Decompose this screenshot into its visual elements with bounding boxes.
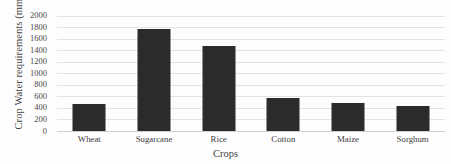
x-axis-tick-labels: WheatSugarcaneRiceCottonMaizeSorghum: [57, 134, 445, 148]
y-axis-tick-label: 200: [34, 115, 47, 124]
x-axis-tick-label: Rice: [211, 134, 227, 144]
y-axis-tick-label: 1000: [30, 69, 47, 78]
x-axis-tick-label: Cotton: [271, 134, 295, 144]
bar: [331, 103, 364, 131]
y-axis-tick-label: 2000: [30, 11, 47, 20]
bar: [137, 29, 170, 131]
bar-slot: [316, 16, 381, 132]
x-axis-tick-label: Sorghum: [397, 134, 429, 144]
x-axis-tick-label: Wheat: [78, 134, 101, 144]
y-axis-tick-label: 1600: [30, 34, 47, 43]
x-axis-tick-label: Maize: [337, 134, 359, 144]
bar-slot: [57, 16, 122, 132]
bar: [396, 106, 429, 131]
y-axis-tick-label: 1800: [30, 23, 47, 32]
bar-slot: [186, 16, 251, 132]
x-axis-line: [57, 131, 445, 132]
y-axis-tick-label: 600: [34, 92, 47, 101]
y-axis-tick-labels: 2000180016001400120010008006004002000: [0, 0, 52, 164]
bar: [267, 98, 300, 131]
y-axis-tick-label: 0: [43, 127, 47, 136]
bar-slot: [380, 16, 445, 132]
x-axis-tick-label: Sugarcane: [136, 134, 173, 144]
y-axis-tick-label: 1400: [30, 46, 47, 55]
plot-area: [57, 16, 445, 132]
y-axis-tick-label: 400: [34, 103, 47, 112]
bar-series: [57, 16, 445, 132]
y-axis-tick-label: 1200: [30, 57, 47, 66]
bar: [202, 46, 235, 131]
bar-slot: [122, 16, 187, 132]
bar-chart: Crop Water requirements (mm) 20001800160…: [0, 0, 451, 164]
x-axis-title: Crops: [0, 148, 451, 159]
y-axis-tick-label: 800: [34, 80, 47, 89]
bar: [73, 104, 106, 131]
bar-slot: [251, 16, 316, 132]
